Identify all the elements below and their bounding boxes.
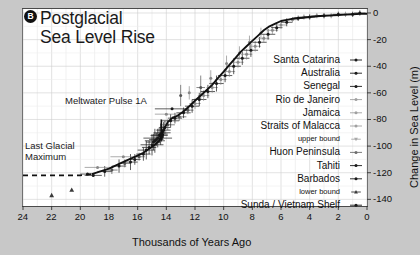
- data-points: [49, 10, 365, 197]
- legend-marker: [350, 125, 362, 128]
- legend-marker: [350, 85, 362, 88]
- legend-marker: [350, 72, 362, 75]
- legend-marker: [350, 151, 362, 154]
- axis-ticks: [23, 13, 371, 210]
- legend-marker: [350, 111, 362, 114]
- legend-marker: [350, 164, 362, 167]
- legend-marker: [350, 59, 362, 62]
- legend-marker: [350, 98, 362, 101]
- legend-marker: [350, 177, 362, 180]
- legend-marker: [350, 204, 362, 207]
